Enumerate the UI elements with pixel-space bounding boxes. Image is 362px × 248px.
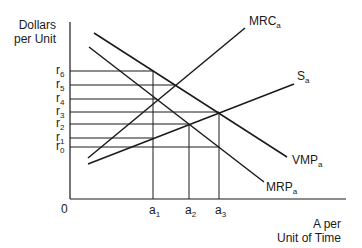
mrc-curve	[88, 28, 245, 158]
x-axis-label-line2: Unit of Time	[277, 231, 341, 245]
factor-market-diagram: Dollars per Unit A per Unit of Time 0 MR…	[0, 0, 362, 248]
y-axis-label-line1: Dollars	[19, 18, 56, 32]
y-axis-label-line2: per Unit	[14, 32, 57, 46]
price-level-guides	[70, 71, 219, 147]
quantity-label-a1: a1	[149, 203, 161, 219]
curve-labels: MRCaSaVMPaMRPa	[249, 14, 323, 196]
quantity-labels: a1a2a3	[149, 203, 227, 219]
curves	[88, 28, 294, 182]
vmp-label: VMPa	[292, 153, 323, 169]
mrp-label: MRPa	[266, 180, 298, 196]
s-label: Sa	[297, 69, 310, 85]
quantity-label-a2: a2	[185, 203, 197, 219]
mrc-label: MRCa	[249, 14, 281, 30]
origin-label: 0	[61, 202, 68, 216]
price-labels: r6r5r4r3r2r1r0	[56, 63, 65, 155]
quantity-label-a3: a3	[215, 203, 227, 219]
x-axis-label-line1: A per	[313, 217, 341, 231]
mrp-curve	[89, 47, 264, 182]
